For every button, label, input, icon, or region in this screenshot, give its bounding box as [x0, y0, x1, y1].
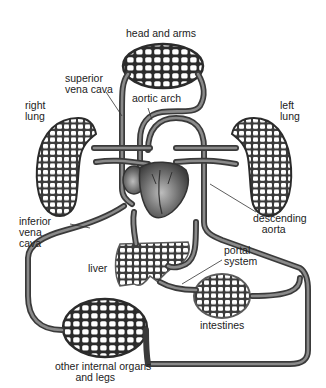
left-lung: [232, 118, 291, 216]
circulatory-diagram: [0, 0, 326, 388]
right-lung: [37, 118, 96, 216]
label-portal-system: portal system: [224, 245, 257, 267]
label-aortic-arch: aortic arch: [132, 93, 181, 104]
label-inferior-vena-cava: inferior vena cava: [19, 216, 51, 249]
head-arms-capillaries: [123, 44, 203, 88]
label-liver: liver: [88, 263, 107, 274]
label-right-lung: right lung: [25, 100, 45, 122]
label-left-lung: left lung: [280, 100, 300, 122]
intestines: [194, 274, 250, 318]
label-head-and-arms: head and arms: [126, 28, 196, 39]
other-organs-legs-capillaries: [63, 299, 147, 357]
label-superior-vena-cava: superior vena cava: [65, 73, 113, 95]
label-descending-aorta: descending aorta: [253, 213, 307, 235]
label-other-internal-organs-and-legs: other internal organs and legs: [55, 361, 151, 383]
label-intestines: intestines: [200, 320, 244, 331]
